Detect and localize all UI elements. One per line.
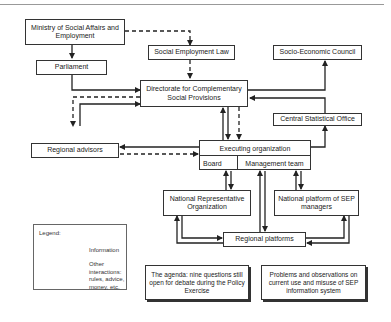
- edge-directorate-sec: [248, 61, 325, 90]
- edge-parliament-directorate: [72, 75, 140, 90]
- node-socio-economic-council: Socio-Economic Council: [273, 45, 362, 60]
- edge-advisors-directorate: [80, 104, 140, 126]
- node-exec-label: Executing organization: [200, 141, 310, 156]
- node-ministry-label: Ministry of Social Affairs and Employmen…: [26, 24, 124, 41]
- legend-information-label: Information: [89, 247, 119, 253]
- node-sec-label: Socio-Economic Council: [280, 48, 356, 57]
- edge-cso-directorate: [250, 98, 325, 113]
- node-sel-label: Social Employment Law: [154, 48, 229, 57]
- node-executing-organization: Executing organization Board Management …: [199, 140, 311, 170]
- node-rp-label: Regional platforms: [235, 235, 293, 244]
- node-npsep-label: National platform of SEP managers: [275, 195, 358, 212]
- node-central-statistical-office: Central Statistical Office: [273, 113, 362, 126]
- note-problems-text: Problems and observations on current use…: [265, 271, 362, 295]
- node-social-employment-law: Social Employment Law: [148, 45, 235, 60]
- node-parliament-label: Parliament: [55, 63, 88, 72]
- node-directorate-label: Directorate for Complementary Social Pro…: [141, 85, 247, 102]
- node-national-platform-sep: National platform of SEP managers: [274, 190, 359, 216]
- legend-title: Legend:: [39, 230, 61, 236]
- legend-other-label: Other interactions: rules, advice, money…: [89, 261, 129, 291]
- edge-npsep-rp: [307, 216, 349, 243]
- node-advisors-label: Regional advisors: [47, 146, 103, 155]
- node-national-representative-organization: National Representative Organization: [163, 190, 251, 216]
- node-cso-label: Central Statistical Office: [280, 115, 355, 124]
- edge-directorate-advisors-dashed: [73, 97, 140, 126]
- note-agenda-text: The agenda: nine questions still open fo…: [149, 271, 245, 295]
- edge-ministry-sel: [125, 31, 190, 45]
- node-board: Board: [200, 156, 238, 170]
- node-parliament: Parliament: [36, 60, 107, 75]
- node-ministry: Ministry of Social Affairs and Employmen…: [25, 19, 125, 45]
- node-nro-label: National Representative Organization: [164, 195, 250, 212]
- node-regional-platforms: Regional platforms: [223, 232, 306, 247]
- node-regional-advisors: Regional advisors: [31, 143, 119, 158]
- edge-exec-cso: [311, 126, 325, 147]
- edge-rp-nro: [177, 216, 223, 243]
- note-agenda: The agenda: nine questions still open fo…: [145, 265, 249, 300]
- node-management-team: Management team: [238, 156, 311, 170]
- note-problems: Problems and observations on current use…: [261, 265, 366, 300]
- node-directorate: Directorate for Complementary Social Pro…: [140, 80, 248, 107]
- edge-nro-rp: [182, 216, 222, 238]
- legend: Legend: Information Other interactions: …: [33, 224, 127, 290]
- edge-rp-npsep: [306, 216, 344, 238]
